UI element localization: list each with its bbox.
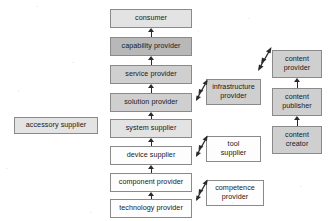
arrow-head (294, 78, 300, 82)
arrow-head (148, 165, 154, 169)
node-consumer[interactable]: consumer (110, 9, 192, 28)
arrow-shaft (297, 80, 298, 88)
diagram-canvas: consumer capability provider service pro… (0, 0, 335, 221)
arrow-head (148, 192, 154, 196)
node-solution-provider[interactable]: solution provider (110, 93, 192, 112)
arrow-shaft (151, 86, 152, 93)
arrow-service-to-capability (147, 56, 156, 65)
arrow-head (294, 116, 300, 120)
node-technology-provider[interactable]: technology provider (110, 199, 192, 218)
arrow-shaft (151, 58, 152, 65)
node-content-creator[interactable]: content creator (272, 126, 322, 154)
arrow-capability-to-consumer (147, 28, 156, 37)
node-service-provider[interactable]: service provider (110, 65, 192, 84)
arrow-solution-to-service (147, 84, 156, 93)
node-competence-provider[interactable]: competence provider (206, 180, 264, 206)
node-content-provider[interactable]: content provider (272, 50, 322, 78)
arrow-publisher-to-provider (293, 78, 302, 88)
arrow-head (148, 112, 154, 116)
node-tool-supplier[interactable]: tool supplier (206, 136, 261, 162)
arrow-head (148, 138, 154, 142)
arrow-head (148, 56, 154, 60)
node-device-supplier[interactable]: device supplier (110, 146, 192, 165)
arrow-head (148, 84, 154, 88)
node-infrastructure-provider[interactable]: infrastructure provider (206, 79, 261, 105)
arrow-shaft (297, 118, 298, 126)
arrow-head (148, 28, 154, 32)
arrow-creator-to-publisher (293, 116, 302, 126)
node-component-provider[interactable]: component provider (110, 173, 192, 192)
node-accessory-supplier[interactable]: accessory supplier (14, 117, 98, 134)
node-content-publisher[interactable]: content publisher (272, 88, 322, 116)
node-system-supplier[interactable]: system supplier (110, 119, 192, 138)
node-capability-provider[interactable]: capability provider (110, 37, 192, 56)
arrow-shaft (151, 30, 152, 37)
